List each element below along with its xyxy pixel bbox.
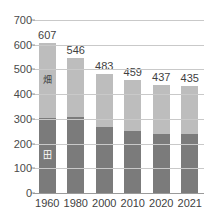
gridline-100 bbox=[33, 168, 204, 169]
bar-total-label: 437 bbox=[152, 72, 170, 83]
bar-group: 437 bbox=[153, 85, 170, 193]
x-axis-label-1960: 1960 bbox=[35, 198, 59, 209]
gridline-700 bbox=[33, 20, 204, 21]
series-inline-label: 田 bbox=[43, 151, 52, 160]
bar-group: 435 bbox=[181, 86, 198, 194]
bar-segment-upper bbox=[153, 85, 170, 134]
stacked-bar-chart: 田畑607546483459437435 0100200300400500600… bbox=[0, 0, 206, 220]
y-axis-label-700: 700 bbox=[0, 15, 32, 26]
y-axis-label-100: 100 bbox=[0, 163, 32, 174]
gridline-600 bbox=[33, 45, 204, 46]
bar-segment-lower bbox=[96, 127, 113, 193]
y-axis-label-600: 600 bbox=[0, 39, 32, 50]
bar-total-label: 546 bbox=[67, 45, 85, 56]
bar-group: 546 bbox=[67, 58, 84, 193]
y-axis-label-300: 300 bbox=[0, 113, 32, 124]
bar-group: 483 bbox=[96, 74, 113, 193]
x-axis-label-2020: 2020 bbox=[149, 198, 173, 209]
bar-segment-upper bbox=[181, 86, 198, 135]
bar-total-label: 607 bbox=[38, 30, 56, 41]
bar-segment-lower bbox=[67, 117, 84, 193]
bar-total-label: 459 bbox=[124, 67, 142, 78]
y-axis-label-0: 0 bbox=[0, 188, 32, 199]
x-axis-label-2021: 2021 bbox=[178, 198, 202, 209]
x-axis-label-1980: 1980 bbox=[64, 198, 88, 209]
x-axis-label-2000: 2000 bbox=[92, 198, 116, 209]
y-axis-label-400: 400 bbox=[0, 89, 32, 100]
gridline-400 bbox=[33, 94, 204, 95]
bar-segment-lower: 田 bbox=[39, 118, 56, 193]
gridline-200 bbox=[33, 144, 204, 145]
series-inline-label: 畑 bbox=[43, 76, 52, 85]
gridline-300 bbox=[33, 119, 204, 120]
bar-group: 459 bbox=[124, 80, 141, 193]
gridline-500 bbox=[33, 69, 204, 70]
gridline-0 bbox=[33, 193, 204, 194]
y-axis-label-200: 200 bbox=[0, 138, 32, 149]
bar-segment-upper bbox=[124, 80, 141, 131]
bar-total-label: 435 bbox=[181, 73, 199, 84]
bar-segment-lower bbox=[124, 131, 141, 193]
x-axis-label-2010: 2010 bbox=[121, 198, 145, 209]
plot-area: 田畑607546483459437435 bbox=[33, 20, 204, 193]
bar-segment-upper bbox=[67, 58, 84, 117]
bars-layer: 田畑607546483459437435 bbox=[33, 20, 204, 193]
bar-segment-upper: 畑 bbox=[39, 43, 56, 118]
y-axis-label-500: 500 bbox=[0, 64, 32, 75]
